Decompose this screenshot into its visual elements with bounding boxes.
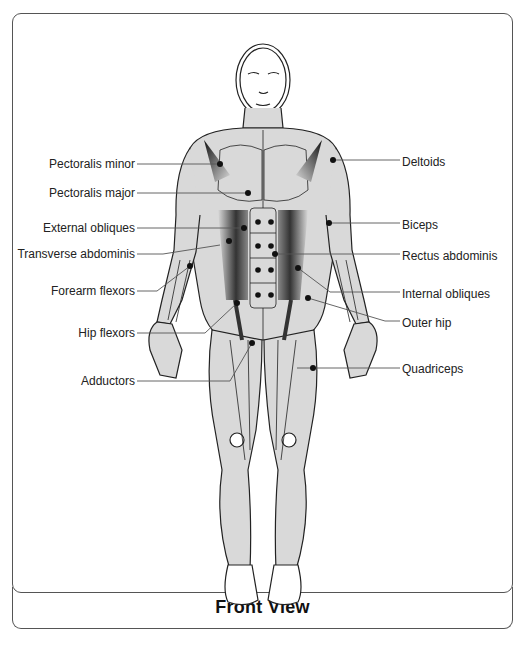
marker-dot-pectoralis-minor: [217, 161, 223, 167]
marker-dot-internal-obliques: [295, 265, 301, 271]
abs-dot: [255, 243, 261, 249]
label-hip-flexors: Hip flexors: [78, 326, 135, 340]
marker-dot-outer-hip: [305, 295, 311, 301]
marker-dot-rectus-abdominis: [272, 251, 278, 257]
marker-dot-transverse-abdominis: [226, 238, 232, 244]
abs-dot: [255, 292, 261, 298]
label-pectoralis-major: Pectoralis major: [49, 186, 135, 200]
abs-dot: [268, 292, 274, 298]
right-hand: [344, 322, 377, 378]
abs-dot: [255, 219, 261, 225]
right-leg: [264, 330, 317, 570]
label-quadriceps: Quadriceps: [402, 362, 463, 376]
label-pectoralis-minor: Pectoralis minor: [49, 157, 135, 171]
marker-dot-deltoids: [330, 157, 336, 163]
label-rectus-abdominis: Rectus abdominis: [402, 249, 497, 263]
marker-dot-biceps: [326, 220, 332, 226]
label-internal-obliques: Internal obliques: [402, 287, 490, 301]
label-deltoids: Deltoids: [402, 155, 445, 169]
label-biceps: Biceps: [402, 218, 438, 232]
marker-dot-adductors: [249, 340, 255, 346]
abs-dot: [268, 219, 274, 225]
marker-dot-hip-flexors: [234, 300, 240, 306]
left-hand: [149, 322, 182, 378]
label-forearm-flexors: Forearm flexors: [51, 284, 135, 298]
label-adductors: Adductors: [81, 374, 135, 388]
abs-dot: [255, 267, 261, 273]
left-leg: [209, 330, 262, 570]
left-arm: [157, 148, 200, 324]
right-arm: [326, 148, 369, 324]
label-external-obliques: External obliques: [43, 221, 135, 235]
marker-dot-forearm-flexors: [187, 263, 193, 269]
abs-dot: [268, 267, 274, 273]
label-outer-hip: Outer hip: [402, 316, 451, 330]
left-foot: [225, 565, 258, 605]
label-transverse-abdominis: Transverse abdominis: [17, 247, 135, 261]
right-foot: [268, 565, 301, 605]
marker-dot-quadriceps: [310, 365, 316, 371]
marker-dot-pectoralis-major: [245, 190, 251, 196]
marker-dot-external-obliques: [241, 225, 247, 231]
abs-dot: [268, 243, 274, 249]
